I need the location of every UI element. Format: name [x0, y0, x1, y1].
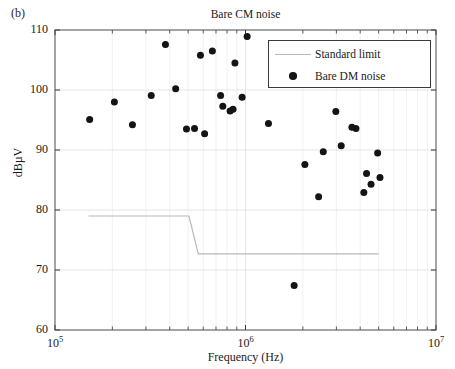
x-tick-0: 105 — [25, 334, 85, 351]
x-tick-1: 106 — [216, 334, 276, 351]
x-axis-label: Frequency (Hz) — [55, 350, 436, 365]
panel-label: (b) — [11, 6, 25, 21]
legend-item-bare-dm-noise: Bare DM noise — [269, 64, 432, 88]
x-tick-2: 107 — [406, 334, 455, 351]
standard-limit-line — [89, 216, 379, 254]
legend-label-bare-dm-noise: Bare DM noise — [315, 70, 385, 82]
y-tick-100: 100 — [8, 82, 48, 97]
y-tick-110: 110 — [8, 22, 48, 37]
legend-item-standard-limit: Standard limit — [269, 42, 432, 66]
y-axis-label: dBµV — [11, 123, 26, 203]
chart-title: Bare CM noise — [55, 8, 436, 20]
legend-label-standard-limit: Standard limit — [315, 48, 380, 60]
y-tick-80: 80 — [8, 202, 48, 217]
y-tick-70: 70 — [8, 262, 48, 277]
legend-marker-swatch — [269, 66, 315, 86]
legend-line-swatch — [269, 44, 315, 64]
y-tick-90: 90 — [8, 142, 48, 157]
chart-legend: Standard limit Bare DM noise — [268, 40, 431, 88]
